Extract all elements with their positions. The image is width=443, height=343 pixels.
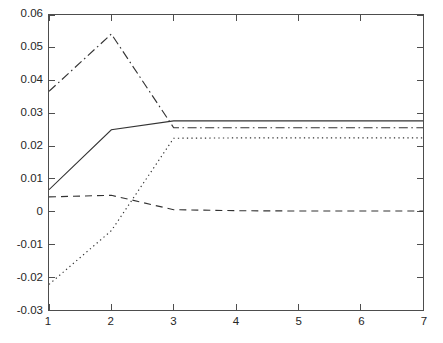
x-tick-label: 2 [91,316,131,328]
x-tick-label: 3 [153,316,193,328]
y-tick-label: 0.06 [21,8,43,20]
y-axis-tick-labels: -0.03-0.02-0.0100.010.020.030.040.050.06 [0,0,43,343]
y-tick-label: 0.03 [21,107,43,119]
x-tick-label: 1 [28,316,68,328]
x-axis-tick-labels: 1234567 [0,316,443,336]
y-tick-label: 0.05 [21,41,43,53]
series-dotted [49,138,423,285]
y-tick-label: 0.01 [21,173,43,185]
series-solid [49,121,423,190]
chart-plot-svg [49,15,423,310]
series-dashdot [49,34,423,128]
y-tick-label: -0.02 [17,272,43,284]
x-tick-label: 6 [341,316,381,328]
y-tick-label: -0.01 [17,239,43,251]
y-tick-label: 0.02 [21,140,43,152]
x-tick-label: 7 [404,316,443,328]
chart-figure: -0.03-0.02-0.0100.010.020.030.040.050.06… [0,0,443,343]
y-tick-label: 0 [37,206,43,218]
series-dashed [49,195,423,211]
plot-area [48,14,424,311]
x-tick-label: 5 [279,316,319,328]
x-tick-label: 4 [216,316,256,328]
y-tick-label: 0.04 [21,74,43,86]
y-tick-label: -0.03 [17,305,43,317]
